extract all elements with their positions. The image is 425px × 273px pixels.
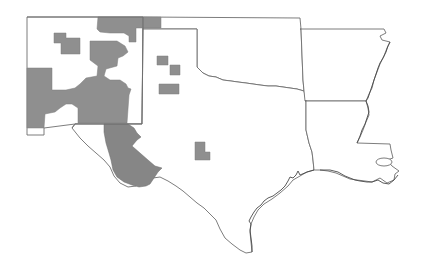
lake-pontchartrain <box>376 158 392 166</box>
region-map <box>0 0 425 273</box>
state-louisiana <box>305 100 399 183</box>
shaded-region-tx-panhandle-1 <box>157 56 168 65</box>
shaded-region-tx-panhandle-2 <box>170 65 180 75</box>
state-arkansas <box>300 29 390 101</box>
shaded-region-ok-panhandle <box>143 17 161 28</box>
shaded-region-tx-panhandle-3 <box>159 84 179 94</box>
map-container <box>0 0 425 273</box>
